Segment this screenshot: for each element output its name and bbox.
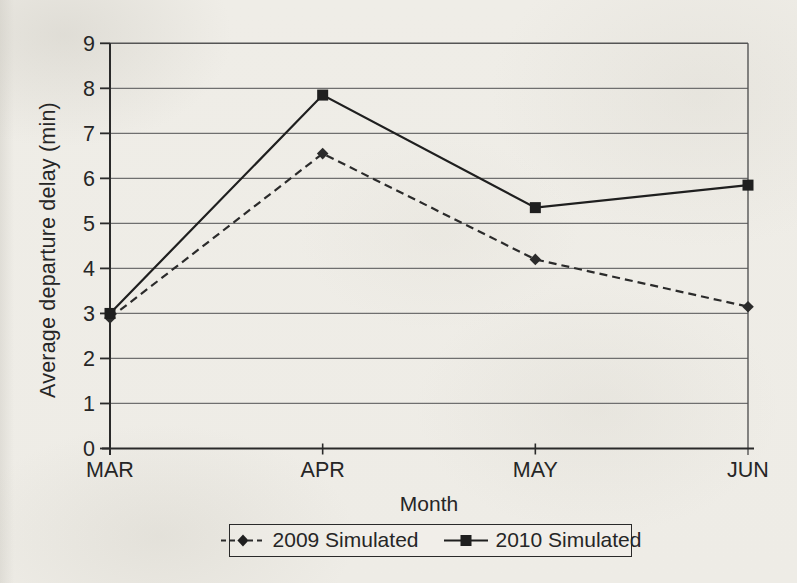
x-axis-title: Month — [400, 492, 458, 516]
legend-item-2010: 2010 Simulated — [443, 528, 642, 552]
y-axis-title: Average departure delay (min) — [36, 102, 61, 398]
y-tick-label-8: 8 — [83, 77, 95, 101]
point-2009-simulated-JUN — [742, 301, 754, 313]
legend-item-2009: 2009 Simulated — [220, 528, 419, 552]
x-tick-label-JUN: JUN — [727, 458, 769, 482]
x-tick-label-MAY: MAY — [513, 458, 558, 482]
legend-label-2009: 2009 Simulated — [273, 528, 419, 552]
dashed-diamond-marker-icon — [220, 533, 266, 548]
x-tick-label-MAR: MAR — [86, 458, 134, 482]
solid-square-marker-icon — [443, 533, 489, 548]
y-tick-label-3: 3 — [83, 302, 95, 326]
legend-label-2010: 2010 Simulated — [496, 528, 642, 552]
y-tick-label-9: 9 — [83, 32, 95, 56]
point-2010-simulated-APR — [317, 90, 328, 101]
x-tick-label-APR: APR — [301, 458, 345, 482]
y-tick-label-6: 6 — [83, 167, 95, 191]
point-2010-simulated-MAR — [105, 308, 116, 319]
legend: 2009 Simulated 2010 Simulated — [229, 524, 632, 557]
figure: 0123456789MARAPRMAYJUN Average departure… — [0, 0, 797, 583]
y-tick-label-4: 4 — [83, 257, 95, 281]
point-2010-simulated-MAY — [530, 202, 541, 213]
y-tick-label-1: 1 — [83, 392, 95, 416]
y-tick-label-2: 2 — [83, 347, 95, 371]
chart-svg: 0123456789MARAPRMAYJUN — [0, 0, 797, 583]
y-tick-label-7: 7 — [83, 122, 95, 146]
point-2009-simulated-MAY — [530, 254, 542, 266]
point-2010-simulated-JUN — [743, 180, 754, 191]
series-line-2010-simulated — [110, 95, 748, 313]
y-tick-label-5: 5 — [83, 212, 95, 236]
